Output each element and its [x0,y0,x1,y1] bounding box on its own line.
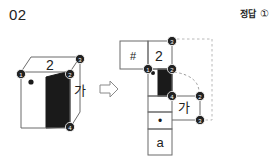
net-vertex-2-top: 2 [167,64,176,73]
cube-vertex-1: 1 [16,69,25,78]
cube-vertex-2: 2 [65,69,74,78]
arrow-right-icon [100,81,118,97]
cube-top-label: 2 [46,57,54,73]
cube-dot-marker [28,79,33,84]
cube-diagram: 2 가 1 2 3 4 [16,54,86,131]
net-vertex-1: 1 [143,64,152,73]
cube-right-label: 가 [74,83,86,98]
net-label-a: a [156,135,164,150]
net-label-ga: 가 [178,100,190,115]
net-diagram: # 2 가 • a 1 2 3 [120,36,212,155]
net-vertex-2-right: 2 [195,91,204,100]
net-label-hash: # [130,50,137,62]
net-vertex-3-right: 3 [195,115,204,124]
net-vertex-4: 4 [167,91,176,100]
cube-vertex-3: 3 [75,54,84,63]
net-fold-arc [174,72,199,94]
net-label-two: 2 [155,48,163,64]
net-label-dot: • [158,114,162,128]
figure-stage: 2 가 1 2 3 4 [0,0,276,165]
cube-shaded-face [46,71,70,128]
cube-vertex-4: 4 [65,122,74,131]
transform-arrow [100,81,118,97]
solution-figure: 02 정답 ① 2 가 [0,0,276,165]
net-vertex-3-top: 3 [167,36,176,45]
